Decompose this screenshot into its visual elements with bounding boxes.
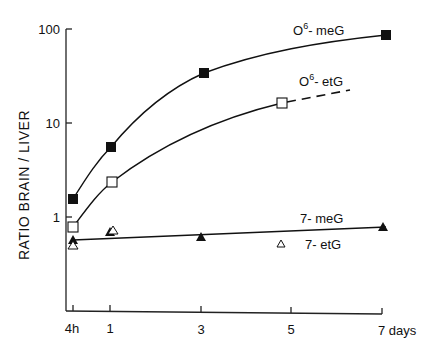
series-o6etg-dashed-extension (287, 90, 350, 102)
label-7etg: 7- etG (305, 237, 341, 252)
y-axis-label: RATIO BRAIN / LIVER (16, 110, 32, 260)
y-axis (66, 29, 72, 311)
y-tick-1: 1 (53, 210, 60, 225)
series-7etg-markers (68, 226, 285, 249)
series-o6etg-markers (68, 98, 287, 232)
x-tick-4h: 4h (65, 321, 79, 336)
x-axis (66, 305, 382, 314)
label-o6meg: O6- meG (293, 21, 344, 38)
series-o6etg-line (73, 103, 282, 227)
x-tick-7-days: 7 days (378, 323, 417, 338)
x-tick-1: 1 (106, 321, 113, 336)
label-o6etg: O6- etG (299, 72, 343, 89)
series-o6meg-line (73, 35, 386, 199)
y-tick-100: 100 (38, 22, 60, 37)
chart: 100 10 1 4h 1 3 5 7 days RATIO BRAIN / L… (0, 0, 440, 356)
label-7meg: 7- meG (300, 211, 343, 226)
x-tick-3: 3 (197, 322, 204, 337)
x-tick-5: 5 (287, 322, 294, 337)
y-tick-10: 10 (46, 116, 60, 131)
